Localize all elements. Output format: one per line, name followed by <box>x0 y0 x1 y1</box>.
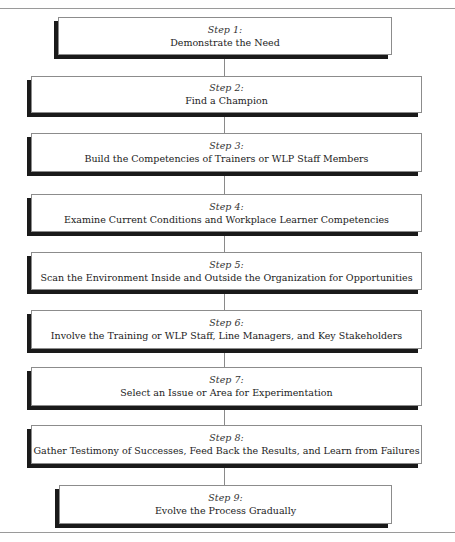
step-8-box: Step 8: Gather Testimony of Successes, F… <box>31 425 422 464</box>
step-7-box: Step 7: Select an Issue or Area for Expe… <box>31 367 422 406</box>
step-9-box: Step 9: Evolve the Process Gradually <box>59 485 392 524</box>
step-1-box: Step 1: Demonstrate the Need <box>58 17 392 55</box>
step-4-label: Step 4: <box>209 201 243 213</box>
connector-1-2 <box>224 55 225 76</box>
step-9-title: Evolve the Process Gradually <box>155 504 296 517</box>
step-7-title: Select an Issue or Area for Experimentat… <box>120 386 332 399</box>
step-3-label: Step 3: <box>209 140 243 152</box>
connector-4-5 <box>224 232 225 252</box>
step-4-box: Step 4: Examine Current Conditions and W… <box>31 194 422 232</box>
step-6-box: Step 6: Involve the Training or WLP Staf… <box>31 310 422 349</box>
step-7-label: Step 7: <box>209 374 243 386</box>
step-5-label: Step 5: <box>209 259 243 271</box>
step-1-label: Step 1: <box>208 24 242 36</box>
step-5-title: Scan the Environment Inside and Outside … <box>40 271 412 284</box>
top-rule <box>0 8 455 9</box>
step-1-title: Demonstrate the Need <box>170 36 280 49</box>
step-2-box: Step 2: Find a Champion <box>31 76 422 113</box>
step-2-title: Find a Champion <box>185 94 268 107</box>
connector-5-6 <box>224 290 225 310</box>
connector-3-4 <box>224 172 225 194</box>
connector-2-3 <box>224 113 225 133</box>
step-3-box: Step 3: Build the Competencies of Traine… <box>31 133 422 172</box>
connector-8-9 <box>224 464 225 485</box>
step-4-title: Examine Current Conditions and Workplace… <box>64 213 389 226</box>
step-2-label: Step 2: <box>209 82 243 94</box>
bottom-rule <box>0 532 455 533</box>
step-3-title: Build the Competencies of Trainers or WL… <box>84 152 368 165</box>
step-6-label: Step 6: <box>209 317 243 329</box>
step-8-title: Gather Testimony of Successes, Feed Back… <box>33 444 419 457</box>
step-5-box: Step 5: Scan the Environment Inside and … <box>31 252 422 290</box>
connector-7-8 <box>224 406 225 425</box>
step-9-label: Step 9: <box>208 492 242 504</box>
step-6-title: Involve the Training or WLP Staff, Line … <box>51 329 402 342</box>
step-8-label: Step 8: <box>209 432 243 444</box>
connector-6-7 <box>224 349 225 367</box>
